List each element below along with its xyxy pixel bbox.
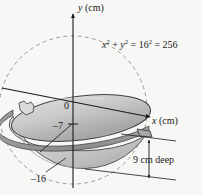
- tick-label-neg16: –16: [31, 174, 46, 184]
- origin-label: 0: [64, 101, 69, 111]
- equation-radius-base: 16: [139, 39, 149, 50]
- equation-result: 256: [163, 39, 178, 50]
- x-axis-label: x (cm): [152, 116, 178, 126]
- bowl-cross-section-figure: y (cm) x (cm) 0 –7 –16 x2 + y2 = 162 = 2…: [0, 0, 202, 195]
- figure-graphic: [0, 0, 202, 195]
- circle-equation-label: x2 + y2 = 162 = 256: [102, 40, 178, 50]
- y-axis-unit: (cm): [85, 2, 104, 13]
- y-axis-label: y (cm): [78, 3, 104, 13]
- x-axis-unit: (cm): [159, 115, 178, 126]
- tick-label-neg7: –7: [53, 121, 63, 131]
- depth-annotation-label: 9 cm deep: [133, 155, 174, 165]
- bowl-interior-ellipse: [9, 88, 153, 149]
- depth-extension-line-bottom: [85, 169, 176, 180]
- bowl-interior-group: [9, 88, 153, 149]
